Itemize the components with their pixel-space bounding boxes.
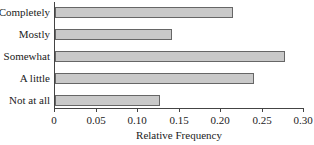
- x-tick: [96, 108, 97, 112]
- x-tick: [179, 108, 180, 112]
- category-label: Completely: [0, 6, 50, 18]
- x-tick-label: 0.10: [127, 114, 146, 126]
- x-tick: [262, 108, 263, 112]
- bar: [55, 73, 254, 84]
- x-tick-label: 0.05: [86, 114, 105, 126]
- bar: [55, 7, 233, 18]
- bar: [55, 51, 285, 62]
- category-label: Not at all: [9, 94, 50, 106]
- bar: [55, 95, 160, 106]
- category-label: Mostly: [19, 28, 50, 40]
- x-tick: [303, 108, 304, 112]
- category-label: Somewhat: [4, 50, 50, 62]
- bar: [55, 29, 172, 40]
- category-label: A little: [20, 72, 50, 84]
- x-tick-label: 0.25: [252, 114, 271, 126]
- x-tick: [220, 108, 221, 112]
- x-tick: [137, 108, 138, 112]
- x-tick-label: 0.30: [293, 114, 312, 126]
- x-tick-label: 0.15: [169, 114, 188, 126]
- x-tick-label: 0: [51, 114, 57, 126]
- x-tick-label: 0.20: [210, 114, 229, 126]
- bar-chart: CompletelyMostlySomewhatA littleNot at a…: [0, 0, 314, 145]
- x-tick: [54, 108, 55, 112]
- x-axis-label: Relative Frequency: [136, 129, 222, 141]
